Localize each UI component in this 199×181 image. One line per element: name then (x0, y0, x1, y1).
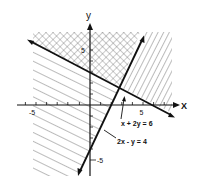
leader-line2 (104, 130, 116, 138)
x-tick-label-neg5: -5 (29, 109, 35, 116)
line1-equation-label: x + 2y = 6 (121, 120, 153, 128)
x-axis-label: X (181, 101, 187, 111)
line2-equation-label: 2x - y = 4 (117, 138, 147, 146)
y-tick-label-5: 5 (81, 47, 85, 54)
y-tick-label-neg5: -5 (97, 157, 103, 164)
y-axis-label: y (86, 10, 91, 21)
x-tick-label-5: 5 (140, 109, 144, 116)
y-axis-arrow-icon (87, 23, 93, 30)
inequality-graph: y X -5 5 5 -5 x + 2y = 6 2x - y = 4 (0, 0, 199, 181)
line1-arrow-left-icon (27, 40, 34, 46)
leader-line1-arrow-icon (122, 96, 126, 102)
x-axis-arrow-icon (173, 102, 180, 108)
